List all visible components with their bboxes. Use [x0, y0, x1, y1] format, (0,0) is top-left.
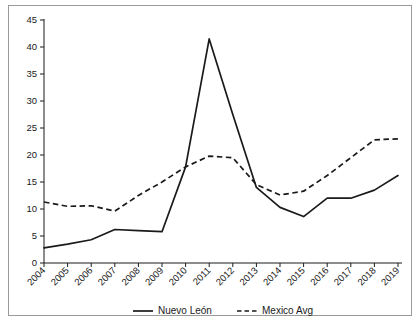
x-tick-label: 2013 [237, 265, 260, 288]
x-tick-label: 2005 [48, 265, 71, 288]
x-tick-label: 2014 [261, 265, 284, 288]
y-tick-label: 25 [26, 122, 37, 133]
chart-figure: 051015202530354045 200420052006200720082… [0, 0, 420, 328]
line-chart: 051015202530354045 200420052006200720082… [0, 0, 420, 328]
x-tick-label: 2004 [25, 265, 48, 288]
x-tick-label: 2006 [72, 265, 95, 288]
x-tick-label: 2016 [308, 265, 331, 288]
x-tick-label: 2018 [355, 265, 378, 288]
x-tick-label: 2019 [379, 265, 402, 288]
x-tick-label: 2012 [213, 265, 236, 288]
x-tick-label: 2017 [331, 265, 354, 288]
y-tick-label: 40 [26, 41, 37, 52]
y-axis-ticks: 051015202530354045 [26, 14, 44, 268]
x-tick-label: 2015 [284, 265, 307, 288]
series-line-mexico-avg [44, 139, 398, 211]
y-tick-label: 45 [26, 14, 37, 25]
legend-label-nuevo-leon: Nuevo León [158, 305, 212, 316]
y-tick-label: 10 [26, 203, 37, 214]
x-axis-ticks: 2004200520062007200820092010201120122013… [25, 263, 402, 287]
x-tick-label: 2007 [95, 265, 118, 288]
y-tick-label: 20 [26, 149, 37, 160]
x-tick-label: 2011 [190, 265, 212, 287]
x-tick-label: 2010 [166, 265, 189, 288]
series-line-nuevo-leon [44, 39, 398, 248]
legend-label-mexico-avg: Mexico Avg [262, 305, 313, 316]
y-tick-label: 5 [32, 230, 37, 241]
x-tick-label: 2008 [119, 265, 142, 288]
chart-legend: Nuevo LeónMexico Avg [133, 305, 313, 316]
y-tick-label: 15 [26, 176, 37, 187]
y-tick-label: 35 [26, 68, 37, 79]
x-tick-label: 2009 [143, 265, 166, 288]
y-tick-label: 30 [26, 95, 37, 106]
